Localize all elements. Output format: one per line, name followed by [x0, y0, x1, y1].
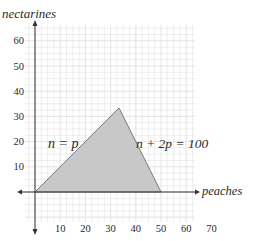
y-axis-label: nectarines — [2, 6, 56, 21]
x-tick-label: 70 — [206, 223, 217, 234]
y-tick-label: 10 — [14, 161, 25, 172]
x-tick-label: 20 — [80, 223, 91, 234]
x-axis-left-arrow-icon — [17, 190, 22, 195]
equation-label-n-plus-2p: n + 2p = 100 — [136, 136, 208, 151]
x-tick-labels: 10203040506070 — [55, 223, 217, 234]
chart: 10203040506070 102030405060 nectarines p… — [0, 0, 255, 241]
y-tick-label: 20 — [14, 136, 25, 147]
y-tick-label: 60 — [14, 35, 25, 46]
x-tick-label: 30 — [105, 223, 116, 234]
x-tick-label: 40 — [131, 223, 142, 234]
x-tick-label: 60 — [181, 223, 192, 234]
x-axis-arrow-icon — [195, 190, 200, 195]
x-axis-label: peaches — [201, 184, 242, 198]
y-axis-down-arrow-icon — [33, 229, 38, 235]
x-tick-label: 10 — [55, 223, 66, 234]
equation-label-n-equals-p: n = p — [48, 136, 78, 151]
x-tick-label: 50 — [156, 223, 167, 234]
y-tick-label: 50 — [14, 61, 25, 72]
y-tick-label: 30 — [14, 111, 25, 122]
y-tick-labels: 102030405060 — [14, 35, 25, 172]
y-tick-label: 40 — [14, 86, 25, 97]
